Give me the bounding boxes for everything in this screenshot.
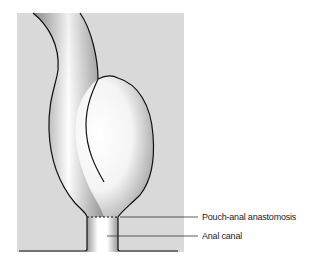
label-pouch-anal-anastomosis: Pouch-anal anastomosis xyxy=(202,212,296,222)
anal-canal-lumen xyxy=(87,217,118,252)
ileal-pouch-diagram xyxy=(0,0,312,266)
label-anal-canal: Anal canal xyxy=(202,231,242,241)
